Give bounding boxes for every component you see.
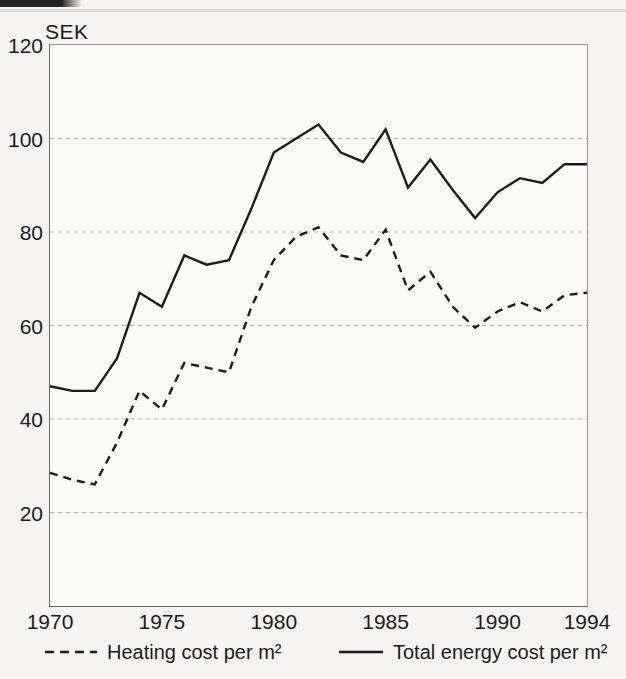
y-tick-label-60: 60 [0, 315, 43, 336]
series-line-heating-cost [50, 227, 587, 484]
y-tick-label-100: 100 [0, 128, 43, 149]
x-tick-label-1975: 1975 [139, 611, 186, 632]
y-axis-unit-label: SEK [45, 21, 89, 42]
x-tick-label-1994: 1994 [564, 611, 611, 632]
x-tick-label-1970: 1970 [27, 611, 74, 632]
y-tick-label-40: 40 [0, 409, 43, 430]
x-tick-label-1985: 1985 [362, 611, 409, 632]
legend-label-total-energy-cost: Total energy cost per m² [393, 640, 608, 664]
scan-artifact-band [0, 9, 626, 12]
plot-area [49, 44, 588, 607]
x-tick-label-1990: 1990 [474, 611, 521, 632]
total-solid-line-swatch [338, 648, 384, 656]
legend-item-total-energy-cost: Total energy cost per m² [338, 640, 608, 664]
y-tick-label-80: 80 [0, 222, 43, 243]
heating-dashed-line-swatch [44, 648, 98, 656]
chart-canvas [50, 45, 587, 606]
series-line-total-energy-cost [50, 125, 587, 391]
x-tick-label-1980: 1980 [250, 611, 297, 632]
scanned-line-chart-page: SEK 20406080100120 197019751980198519901… [0, 0, 626, 679]
y-tick-label-120: 120 [0, 35, 43, 56]
scan-artifact-bar [0, 0, 82, 7]
y-tick-label-20: 20 [0, 502, 43, 523]
legend-label-heating-cost: Heating cost per m² [107, 640, 282, 664]
legend-item-heating-cost: Heating cost per m² [44, 640, 282, 664]
